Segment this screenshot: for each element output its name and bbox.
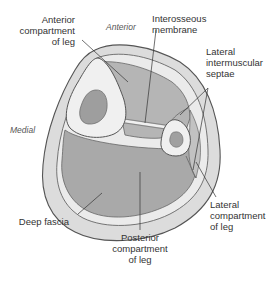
label-interosseous-membrane: Interosseous membrane	[152, 13, 206, 35]
fibula-marrow	[170, 132, 183, 147]
orientation-anterior: Anterior	[106, 22, 136, 33]
label-lateral-compartment: Lateral compartment of leg	[210, 199, 265, 232]
label-deep-fascia: Deep fascia	[19, 216, 69, 227]
orientation-medial: Medial	[10, 125, 35, 136]
label-lateral-intermuscular-septae: Lateral intermuscular septae	[206, 46, 263, 79]
label-anterior-compartment: Anterior compartment of leg	[20, 14, 75, 47]
label-posterior-compartment: Posterior compartment of leg	[100, 232, 180, 265]
